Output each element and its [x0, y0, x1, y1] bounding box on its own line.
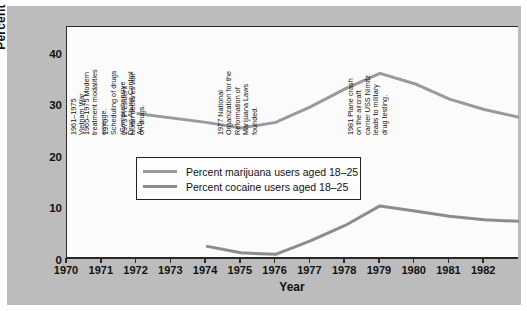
x-tick-mark — [65, 258, 67, 263]
annotation-line: drug testing. — [381, 75, 389, 135]
annotation-line: on drugs. — [138, 73, 146, 135]
legend-label-cocaine: Percent cocaine users aged 18–25 — [186, 181, 348, 193]
y-tick-value: 40 — [49, 48, 66, 60]
x-tick-label: 1977 — [297, 264, 321, 276]
page-edge-bottom — [0, 305, 527, 311]
y-tick-label: 40 — [0, 44, 66, 62]
x-tick-mark — [378, 258, 380, 263]
x-tick-mark — [274, 258, 276, 263]
legend-swatch-marijuana — [143, 170, 177, 173]
x-tick-label: 1971 — [89, 264, 113, 276]
x-tick-mark — [413, 258, 415, 263]
chart-annotation: 1973 PresidentNixon declares waron drugs… — [121, 73, 146, 135]
x-tick-mark — [448, 258, 450, 263]
x-tick-mark — [482, 258, 484, 263]
y-tick-value: 30 — [49, 99, 66, 111]
x-tick-label: 1979 — [367, 264, 391, 276]
y-axis-label: Percent Use — [0, 0, 8, 74]
chart-legend: Percent marijuana users aged 18–25 Perce… — [136, 157, 361, 200]
data-series-lines — [67, 27, 519, 259]
legend-swatch-cocaine — [143, 185, 177, 188]
x-axis: 1970197119721973197419751976197719781979… — [66, 258, 518, 304]
y-tick-value: 20 — [49, 151, 66, 163]
y-tick-label: 20 — [0, 147, 66, 165]
x-tick-label: 1976 — [262, 264, 286, 276]
chart-figure: Percent Use 010203040 1961–1975Vietnam W… — [0, 0, 527, 311]
y-tick-label: 30 — [0, 95, 66, 113]
annotation-line: founded. — [250, 71, 258, 135]
plot-inner: 1961–1975Vietnam War1965–1975 Moderntrea… — [67, 27, 518, 258]
x-tick-label: 1972 — [123, 264, 147, 276]
series-line-marijuana — [137, 73, 519, 128]
x-tick-label: 1978 — [332, 264, 356, 276]
x-tick-label: 1980 — [401, 264, 425, 276]
x-tick-label: 1982 — [471, 264, 495, 276]
page-edge-top — [0, 0, 527, 6]
x-tick-mark — [135, 258, 137, 263]
page-edge-right — [521, 0, 527, 311]
series-line-cocaine — [206, 206, 519, 254]
plot-area: 1961–1975Vietnam War1965–1975 Moderntrea… — [66, 26, 518, 258]
x-tick-mark — [309, 258, 311, 263]
x-tick-label: 1975 — [228, 264, 252, 276]
y-tick-label: 10 — [0, 198, 66, 216]
x-tick-mark — [343, 258, 345, 263]
x-tick-mark — [239, 258, 241, 263]
x-tick-label: 1970 — [54, 264, 78, 276]
annotation-line: Marijuana Laws — [242, 71, 250, 135]
legend-item: Percent marijuana users aged 18–25 — [143, 164, 360, 179]
chart-annotation: 1977 NationalOrganization for theReforma… — [217, 71, 259, 135]
x-tick-label: 1973 — [158, 264, 182, 276]
x-tick-label: 1981 — [436, 264, 460, 276]
x-tick-mark — [204, 258, 206, 263]
x-axis-label: Year — [66, 280, 518, 294]
legend-item: Percent cocaine users aged 18–25 — [143, 179, 360, 194]
chart-annotation: 1981 Plane crashon the aircraftcarrier U… — [347, 75, 389, 135]
x-tick-mark — [100, 258, 102, 263]
legend-label-marijuana: Percent marijuana users aged 18–25 — [186, 166, 358, 178]
y-tick-value: 10 — [49, 202, 66, 214]
x-tick-mark — [170, 258, 172, 263]
x-tick-label: 1974 — [193, 264, 217, 276]
